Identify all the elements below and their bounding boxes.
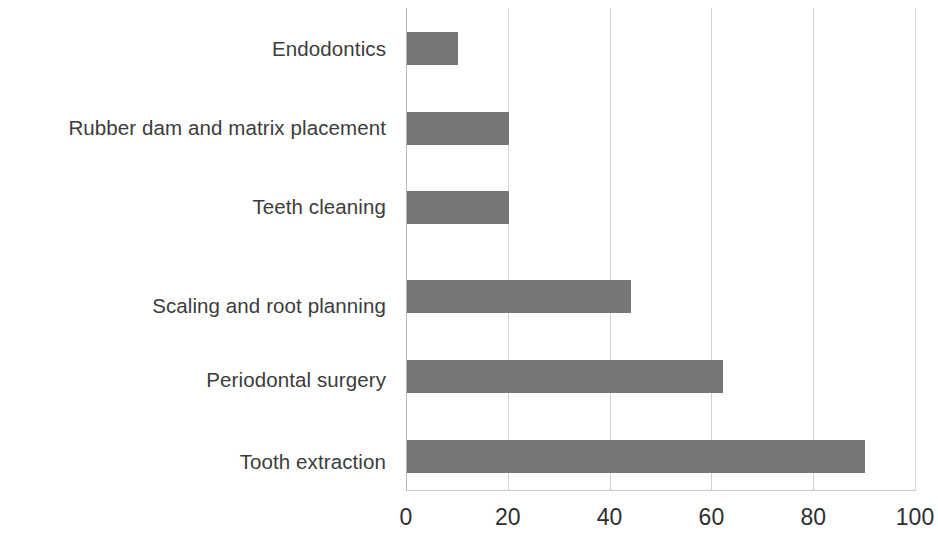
x-tick-label-60: 60: [699, 506, 725, 529]
gridline-20: [508, 8, 509, 490]
bar-endodontics: [407, 32, 458, 65]
bar-chart: Endodontics Rubber dam and matrix placem…: [0, 0, 938, 553]
plot-area: [406, 8, 915, 490]
bar-periodontal-surgery: [407, 360, 723, 393]
x-axis-line: [406, 490, 916, 491]
category-label-5: Tooth extraction: [0, 452, 386, 473]
x-tick-label-20: 20: [495, 506, 521, 529]
category-label-0: Endodontics: [0, 39, 386, 60]
bar-teeth-cleaning: [407, 191, 509, 224]
gridline-100: [915, 8, 916, 490]
gridline-0: [406, 8, 407, 490]
bar-rubber-dam-and-matrix-placement: [407, 112, 509, 145]
gridline-80: [813, 8, 814, 490]
x-axis-tick-labels: 0 20 40 60 80 100: [406, 506, 926, 546]
gridline-60: [711, 8, 712, 490]
bar-scaling-and-root-planning: [407, 280, 631, 313]
category-label-1: Rubber dam and matrix placement: [0, 118, 386, 139]
gridline-40: [610, 8, 611, 490]
bar-tooth-extraction: [407, 440, 865, 473]
category-label-4: Periodontal surgery: [0, 370, 386, 391]
category-label-2: Teeth cleaning: [0, 197, 386, 218]
x-tick-label-0: 0: [400, 506, 413, 529]
x-tick-label-100: 100: [896, 506, 934, 529]
category-label-3: Scaling and root planning: [0, 296, 386, 317]
x-tick-label-40: 40: [597, 506, 623, 529]
category-axis-labels: Endodontics Rubber dam and matrix placem…: [0, 0, 396, 490]
x-tick-label-80: 80: [800, 506, 826, 529]
